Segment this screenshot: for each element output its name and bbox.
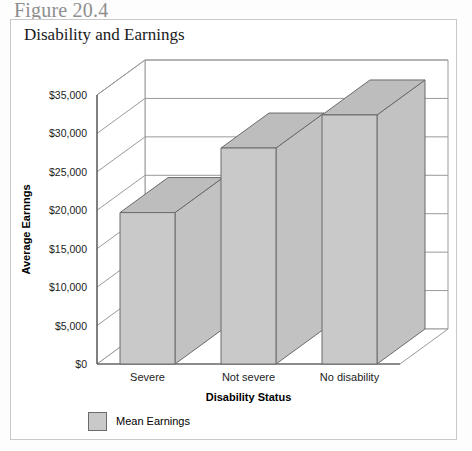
figure-root: Figure 20.4 Disability and Earnings $0$5… <box>0 0 472 451</box>
chart-plot: $0$5,000$10,000$15,000$20,000$25,000$30,… <box>0 0 472 451</box>
legend-label: Mean Earnings <box>116 415 190 427</box>
x-axis-title: Disability Status <box>206 391 292 403</box>
bar-side-face <box>276 113 324 364</box>
y-axis-title: Average Earnngs <box>20 184 32 274</box>
y-axis-tick-label: $5,000 <box>55 320 87 332</box>
y-axis-tick-label: $15,000 <box>49 243 87 255</box>
y-axis-tick-label: $10,000 <box>49 281 87 293</box>
bar-front-face <box>221 148 276 364</box>
y-axis-tick-label: $30,000 <box>49 127 87 139</box>
x-axis-tick-label: Not severe <box>222 371 275 383</box>
bar-front-face <box>322 115 377 364</box>
legend-swatch <box>88 412 107 431</box>
bar-front-face <box>120 213 175 364</box>
y-axis-tick-label: $35,000 <box>49 89 87 101</box>
bar-chart-svg: $0$5,000$10,000$15,000$20,000$25,000$30,… <box>0 0 472 451</box>
y-axis-tick-label: $0 <box>75 358 87 370</box>
y-axis-tick-label: $25,000 <box>49 166 87 178</box>
bar-side-face <box>377 80 425 364</box>
y-axis-tick-label: $20,000 <box>49 204 87 216</box>
x-axis-tick-label: No disability <box>320 371 380 383</box>
x-axis-tick-label: Severe <box>130 371 165 383</box>
